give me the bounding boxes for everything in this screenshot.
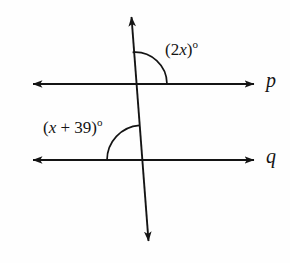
transversal-line xyxy=(132,17,149,241)
angle-arc-x-plus-39 xyxy=(107,125,139,160)
angle-2x-prefix: (2 xyxy=(165,40,179,59)
angle-label-2x: (2x)o xyxy=(165,39,198,58)
degree-symbol-icon: o xyxy=(97,116,103,128)
angle-x39-suffix: + 39) xyxy=(56,118,97,137)
geometry-figure: (2x)o (x + 39)o p q xyxy=(0,0,290,263)
degree-symbol-icon: o xyxy=(192,38,198,50)
angle-arc-2x xyxy=(133,52,167,84)
line-label-p: p xyxy=(266,70,276,90)
line-label-q: q xyxy=(266,146,276,166)
angle-label-x-plus-39: (x + 39)o xyxy=(43,117,102,136)
angle-2x-variable: x xyxy=(179,40,187,59)
